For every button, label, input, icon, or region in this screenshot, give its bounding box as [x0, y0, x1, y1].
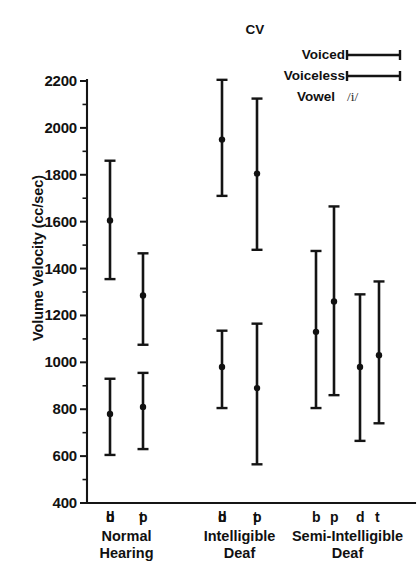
mean-marker [331, 298, 337, 304]
mean-marker [219, 364, 225, 370]
error-bar-b [105, 161, 116, 279]
mean-marker [219, 136, 225, 142]
y-tick-label: 800 [25, 400, 77, 417]
error-bar-t [252, 324, 263, 465]
error-bar-p [252, 99, 263, 250]
mean-marker [107, 217, 113, 223]
x-tick-letter: t [253, 509, 258, 525]
y-tick-label: 2000 [25, 119, 77, 136]
legend-markers [347, 50, 400, 81]
mean-marker [313, 329, 319, 335]
legend-entry-label: Voiced [165, 47, 345, 62]
error-bar-d [105, 379, 116, 455]
mean-marker [107, 411, 113, 417]
x-tick-letter: d [218, 509, 227, 525]
y-axis-title: Volume Velocity (cc/sec) [30, 148, 46, 368]
x-tick-letter: t [375, 509, 380, 525]
error-bar-d [217, 331, 228, 408]
axis-lines [87, 80, 415, 503]
legend-entry-label: Voiceless [165, 68, 345, 83]
mean-marker [140, 404, 146, 410]
x-group-label-line: Semi-Intelligible [273, 528, 418, 545]
legend-title: CV [165, 22, 345, 37]
mean-marker [376, 352, 382, 358]
error-bar-p [138, 253, 149, 344]
x-tick-letter: p [330, 509, 339, 525]
mean-marker [254, 170, 260, 176]
x-tick-letter: d [356, 509, 365, 525]
x-group-label-line: Deaf [273, 545, 418, 562]
x-tick-letter: d [106, 509, 115, 525]
data-series [105, 80, 385, 464]
x-tick-letter: b [312, 509, 321, 525]
error-bar-p [329, 206, 340, 395]
x-tick-letter: t [139, 509, 144, 525]
mean-marker [357, 364, 363, 370]
x-group-label: Semi-IntelligibleDeaf [273, 528, 418, 562]
y-tick-label: 600 [25, 447, 77, 464]
chart-container: 4006008001000120014001600180020002200 Vo… [0, 0, 418, 587]
error-bar-b [311, 251, 322, 408]
mean-marker [140, 292, 146, 298]
legend-vowel-label: Vowel [155, 89, 335, 104]
legend-vowel-symbol: /i/ [347, 89, 358, 105]
y-tick-label: 400 [25, 494, 77, 511]
error-bar-t [138, 373, 149, 449]
axes [80, 80, 415, 503]
error-bar-d [355, 294, 366, 441]
y-tick-label: 2200 [25, 72, 77, 89]
mean-marker [254, 385, 260, 391]
error-bar-t [374, 281, 385, 423]
